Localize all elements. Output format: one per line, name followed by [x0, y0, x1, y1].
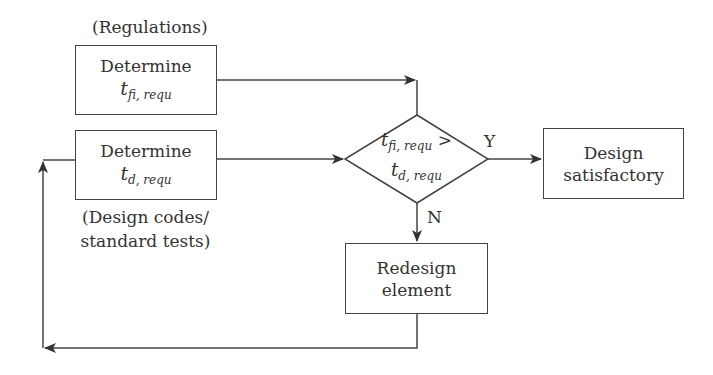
redesign-line2: element [382, 279, 452, 301]
decision-tfi-subscript: fi, requ [388, 139, 432, 153]
design-codes-label: (Design codes/ standard tests) [78, 207, 213, 251]
greater-than-operator: > [432, 130, 452, 150]
tfi-requ-variable: tfi, requ [120, 77, 172, 106]
decision-td-subscript: d, requ [398, 169, 442, 183]
edge-redesign-loop [45, 313, 417, 348]
determine-td-label: Determine [100, 140, 191, 162]
redesign-line1: Redesign [377, 257, 457, 279]
td-requ-variable: td, requ [120, 162, 171, 191]
redesign-element-box: Redesign element [345, 243, 488, 314]
flowchart-diagram: (Regulations) Determine tfi, requ Determ… [0, 0, 713, 375]
yes-label: Y [484, 131, 495, 151]
tfi-symbol: t [120, 77, 128, 99]
regulations-label: (Regulations) [92, 17, 202, 37]
design-codes-line2: standard tests) [78, 231, 213, 251]
determine-td-box: Determine td, requ [75, 130, 217, 200]
design-satisfactory-line2: satisfactory [563, 164, 664, 186]
determine-tfi-label: Determine [100, 55, 191, 77]
tfi-subscript: fi, requ [128, 88, 172, 102]
no-label: N [427, 207, 442, 227]
determine-tfi-box: Determine tfi, requ [75, 45, 217, 115]
decision-condition: tfi, requ > td, requ [345, 128, 488, 188]
design-satisfactory-box: Design satisfactory [543, 128, 684, 199]
td-subscript: d, requ [128, 173, 172, 187]
design-codes-line1: (Design codes/ [78, 207, 213, 227]
td-symbol: t [120, 162, 128, 184]
design-satisfactory-line1: Design [584, 142, 644, 164]
